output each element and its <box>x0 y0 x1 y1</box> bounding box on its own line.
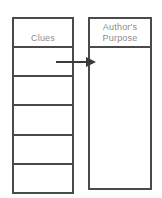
graphic-organizer: Clues Author's Purpose <box>0 0 162 198</box>
clues-header-label: Clues <box>31 33 55 44</box>
clues-row-5[interactable] <box>14 165 72 192</box>
clues-column: Clues <box>12 17 74 194</box>
authors-purpose-header-line2: Purpose <box>103 33 138 44</box>
authors-purpose-body[interactable] <box>90 48 150 188</box>
clues-row-2[interactable] <box>14 77 72 106</box>
authors-purpose-header: Author's Purpose <box>90 19 150 48</box>
clues-row-3[interactable] <box>14 106 72 135</box>
clues-header: Clues <box>14 19 72 48</box>
authors-purpose-header-line1: Author's <box>103 22 137 33</box>
authors-purpose-column: Author's Purpose <box>88 17 152 190</box>
arrow-icon <box>56 54 96 70</box>
clues-row-4[interactable] <box>14 136 72 165</box>
